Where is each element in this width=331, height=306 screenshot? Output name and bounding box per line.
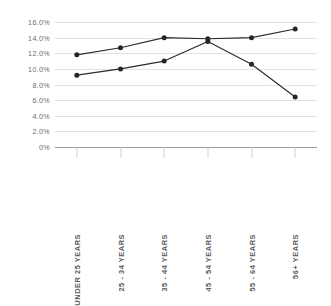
series-data-point <box>162 35 167 40</box>
x-axis-tick <box>76 147 77 158</box>
plot-area <box>55 22 317 147</box>
x-axis-ticks <box>55 147 317 158</box>
y-axis-tick-label: 14.0% <box>2 33 50 42</box>
y-axis-tick-label: 12.0% <box>2 49 50 58</box>
x-axis-tick <box>207 147 208 158</box>
x-axis-tick <box>295 147 296 158</box>
series-data-point <box>118 66 123 71</box>
series-data-point <box>74 52 79 57</box>
x-axis-category-label: 56+ YEARS <box>291 234 300 279</box>
series-data-point <box>118 45 123 50</box>
x-axis-category-label: 55 - 64 YEARS <box>247 234 256 292</box>
series-data-point <box>293 27 298 32</box>
x-axis-category-label: 45 - 54 YEARS <box>203 234 212 292</box>
series-data-point <box>205 39 210 44</box>
series-data-point <box>249 35 254 40</box>
y-axis-tick-label: 8.0% <box>2 80 50 89</box>
y-axis-tick-label: 2.0% <box>2 127 50 136</box>
x-axis-tick <box>164 147 165 158</box>
x-axis-tick <box>251 147 252 158</box>
y-axis-tick-label: 10.0% <box>2 64 50 73</box>
series-data-point <box>293 95 298 100</box>
x-axis-category-label: 25 - 34 YEARS <box>116 234 125 292</box>
series-data-point <box>249 62 254 67</box>
x-axis-category-label: 35 - 44 YEARS <box>160 234 169 292</box>
y-axis-tick-label: 0% <box>2 143 50 152</box>
y-axis-tick-label: 16.0% <box>2 18 50 27</box>
series-layer <box>55 22 317 147</box>
y-axis-tick-label: 4.0% <box>2 111 50 120</box>
series-data-point <box>74 73 79 78</box>
x-axis-tick <box>120 147 121 158</box>
x-axis-category-label: UNDER 25 YEARS <box>72 234 81 306</box>
x-axis-labels: UNDER 25 YEARS25 - 34 YEARS35 - 44 YEARS… <box>55 158 317 238</box>
y-axis-tick-label: 6.0% <box>2 96 50 105</box>
series-data-point <box>162 59 167 64</box>
y-axis-labels: 16.0%14.0%12.0%10.0%8.0%6.0%4.0%2.0%0% <box>0 22 50 147</box>
